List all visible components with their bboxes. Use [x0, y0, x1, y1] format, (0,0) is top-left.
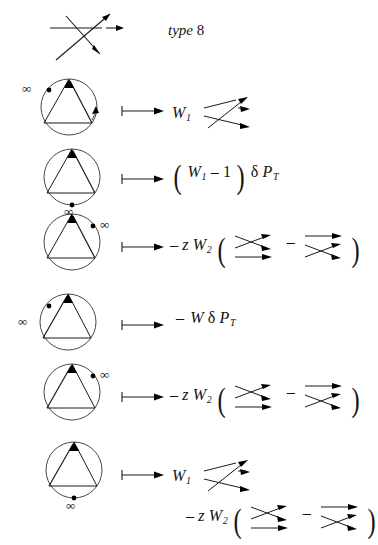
header-label-word: type	[168, 22, 193, 38]
row-3-mapsto-arrow	[120, 240, 166, 254]
subscript-1: 1	[186, 112, 191, 123]
header-label-number: 8	[197, 22, 205, 38]
header-tangle-diagram	[48, 8, 134, 66]
header-label: type 8	[168, 22, 204, 39]
row-5-mapsto-arrow	[120, 390, 166, 404]
infinity-symbol: ∞	[100, 367, 109, 382]
tangle-3strand-a	[202, 96, 262, 132]
row-2-circle-diagram: ∞	[38, 146, 118, 216]
tangle-3strand-a	[202, 459, 262, 495]
infinity-symbol: ∞	[66, 498, 75, 513]
tangle-2strand-b	[249, 502, 295, 532]
row-6-formula-line1: W1	[172, 459, 263, 495]
infinity-symbol: ∞	[100, 217, 109, 232]
row-3-formula: –zW2( – )	[170, 231, 362, 261]
row-6-circle-diagram: ∞	[38, 438, 118, 514]
row-4-mapsto-arrow	[120, 318, 166, 332]
tangle-2strand-b	[233, 231, 279, 261]
row-6-formula-line2: –zW2( – )	[186, 502, 378, 532]
variable-W: W	[172, 104, 186, 121]
tangle-2strand-c	[303, 231, 349, 261]
row-1-circle-diagram: ∞	[22, 76, 112, 138]
tangle-2strand-c	[319, 502, 365, 532]
row-1-mapsto-arrow	[120, 104, 166, 118]
row-1-formula: W1	[172, 96, 263, 132]
tangle-2strand-d	[233, 381, 279, 411]
infinity-symbol: ∞	[18, 314, 27, 329]
row-2-formula: (W1–1)δPT	[172, 163, 279, 182]
infinity-symbol: ∞	[22, 81, 31, 96]
row-4-formula: –WδPT	[176, 309, 236, 328]
tangle-2strand-e	[303, 381, 349, 411]
row-2-mapsto-arrow	[120, 172, 166, 186]
row-4-circle-diagram: ∞	[18, 290, 114, 354]
row-5-formula: –zW2( – )	[170, 381, 362, 411]
row-6-mapsto-arrow	[120, 468, 166, 482]
